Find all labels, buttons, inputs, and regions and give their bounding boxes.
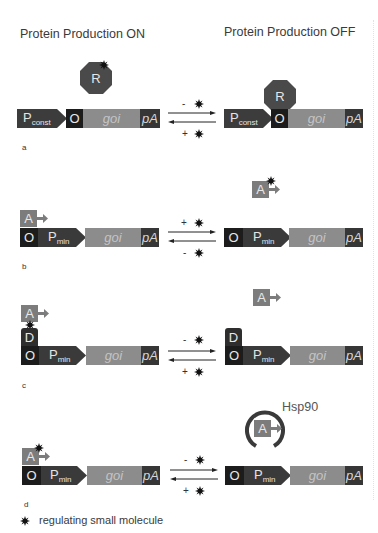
activator: A bbox=[20, 210, 37, 227]
small-molecule-icon bbox=[266, 176, 276, 186]
repressor-octagon-bound: R bbox=[264, 80, 296, 112]
operator: O bbox=[271, 109, 288, 128]
operator: O bbox=[66, 109, 83, 128]
hsp90-label: Hsp90 bbox=[282, 400, 318, 414]
polya-signal: pA bbox=[141, 346, 159, 365]
promoter-min: Pmin bbox=[39, 346, 86, 365]
small-molecule-icon bbox=[194, 248, 204, 258]
sign-forward: - bbox=[183, 334, 186, 345]
small-molecule-icon bbox=[194, 218, 204, 228]
polya-signal: pA bbox=[345, 109, 363, 128]
operator: O bbox=[22, 466, 41, 485]
sign-reverse: + bbox=[182, 128, 188, 139]
equilibrium-arrows bbox=[166, 348, 218, 364]
equilibrium-arrows bbox=[168, 467, 220, 483]
gene-of-interest: goi bbox=[83, 109, 140, 128]
gene-of-interest: goi bbox=[87, 466, 142, 485]
operator: O bbox=[225, 466, 244, 485]
promoter-min: Pmin bbox=[38, 228, 86, 247]
promoter-min: Pmin bbox=[243, 228, 291, 247]
panel-label-d: d bbox=[24, 500, 28, 509]
gene-of-interest: goi bbox=[85, 228, 141, 247]
activator-arrow-icon bbox=[37, 214, 49, 223]
equilibrium-arrows bbox=[166, 229, 218, 245]
dimerizer: D bbox=[225, 328, 242, 346]
activator-arrow-icon bbox=[270, 293, 282, 302]
polya-signal: pA bbox=[345, 228, 363, 247]
gene-of-interest: goi bbox=[288, 109, 345, 128]
small-molecule-icon bbox=[194, 367, 204, 377]
dimerizer: D bbox=[21, 328, 38, 346]
sign-reverse: - bbox=[183, 247, 186, 258]
gene-of-interest: goi bbox=[86, 346, 141, 365]
sign-reverse: + bbox=[182, 366, 188, 377]
promoter-min: Pmin bbox=[41, 466, 87, 485]
promoter-min: Pmin bbox=[244, 466, 291, 485]
promoter-const: Pconst bbox=[17, 109, 67, 128]
svg-text:R: R bbox=[275, 89, 284, 104]
polya-signal: pA bbox=[345, 466, 363, 485]
polya-signal: pA bbox=[345, 346, 363, 365]
small-molecule-icon bbox=[99, 60, 109, 70]
small-molecule-icon bbox=[194, 335, 204, 345]
panel-label-a: a bbox=[22, 143, 26, 152]
panel-label-c: c bbox=[22, 381, 26, 390]
operator: O bbox=[21, 346, 39, 365]
heading-protein-off: Protein Production OFF bbox=[224, 25, 355, 39]
small-molecule-icon bbox=[195, 455, 205, 465]
svg-text:R: R bbox=[91, 71, 100, 86]
activator-free: A bbox=[253, 289, 270, 306]
small-molecule-icon bbox=[195, 486, 205, 496]
promoter-min: Pmin bbox=[243, 346, 291, 365]
polya-signal: pA bbox=[142, 466, 160, 485]
panel-label-b: b bbox=[22, 262, 26, 271]
activator-arrow-icon bbox=[38, 309, 50, 318]
operator: O bbox=[225, 346, 243, 365]
sign-reverse: + bbox=[183, 485, 189, 496]
activator-arrow-icon bbox=[269, 185, 281, 194]
activator-arrow-icon bbox=[271, 424, 283, 433]
equilibrium-arrows bbox=[166, 110, 218, 126]
small-molecule-icon bbox=[194, 129, 204, 139]
heading-protein-on: Protein Production ON bbox=[20, 27, 145, 41]
small-molecule-icon bbox=[34, 443, 44, 453]
gene-of-interest: goi bbox=[289, 228, 345, 247]
activator-arrow-icon bbox=[39, 452, 51, 461]
gene-of-interest: goi bbox=[290, 466, 345, 485]
sign-forward: + bbox=[181, 217, 187, 228]
edge-divider bbox=[373, 20, 375, 500]
star-burst-icon bbox=[20, 516, 30, 526]
gene-of-interest: goi bbox=[290, 346, 345, 365]
promoter-const: Pconst bbox=[224, 109, 273, 128]
sign-forward: - bbox=[184, 454, 187, 465]
small-molecule-icon bbox=[194, 99, 204, 109]
operator: O bbox=[20, 228, 38, 247]
activator-sequestered: A bbox=[254, 420, 271, 437]
polya-signal: pA bbox=[141, 228, 159, 247]
sign-forward: - bbox=[182, 98, 185, 109]
operator: O bbox=[224, 228, 243, 247]
legend-text: regulating small molecule bbox=[39, 514, 163, 526]
polya-signal: pA bbox=[140, 109, 160, 128]
